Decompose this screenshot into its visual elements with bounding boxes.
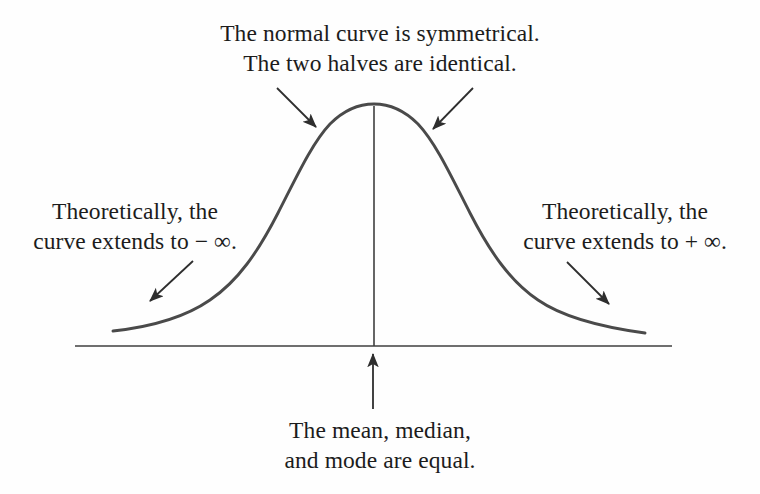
caption-central-tendency-line1: The mean, median, [255, 415, 505, 445]
caption-symmetry-line2: The two halves are identical. [0, 48, 760, 78]
caption-right-tail: Theoretically, the curve extends to + ∞. [500, 196, 750, 256]
arrow-symmetry-left [277, 88, 316, 127]
normal-curve-figure: The normal curve is symmetrical. The two… [0, 0, 760, 494]
arrow-symmetry-right [433, 88, 473, 129]
caption-symmetry: The normal curve is symmetrical. The two… [0, 18, 760, 78]
caption-right-tail-line1: Theoretically, the [500, 196, 750, 226]
caption-central-tendency-line2: and mode are equal. [255, 445, 505, 475]
caption-left-tail: Theoretically, the curve extends to − ∞. [10, 196, 260, 256]
arrow-right-tail [567, 262, 609, 304]
caption-right-tail-line2: curve extends to + ∞. [500, 226, 750, 256]
arrow-left-tail [150, 261, 193, 301]
caption-central-tendency: The mean, median, and mode are equal. [255, 415, 505, 475]
caption-left-tail-line2: curve extends to − ∞. [10, 226, 260, 256]
caption-left-tail-line1: Theoretically, the [10, 196, 260, 226]
caption-symmetry-line1: The normal curve is symmetrical. [0, 18, 760, 48]
